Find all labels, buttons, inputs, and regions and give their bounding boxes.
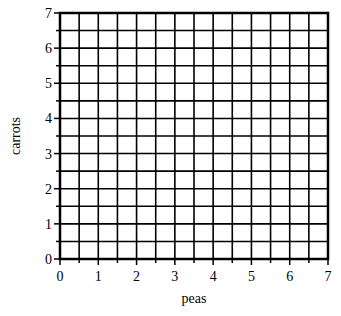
y-tick-label: 5 bbox=[45, 76, 52, 91]
x-tick-label: 6 bbox=[286, 269, 293, 284]
x-tick-label: 0 bbox=[57, 269, 64, 284]
x-tick-label: 4 bbox=[210, 269, 217, 284]
y-tick-label: 0 bbox=[45, 252, 52, 267]
y-axis-ticks: 01234567 bbox=[45, 6, 60, 267]
x-axis-ticks: 01234567 bbox=[57, 259, 332, 284]
y-tick-label: 4 bbox=[45, 111, 52, 126]
y-tick-label: 3 bbox=[45, 147, 52, 162]
x-tick-label: 2 bbox=[133, 269, 140, 284]
x-tick-label: 7 bbox=[325, 269, 332, 284]
x-tick-label: 5 bbox=[248, 269, 255, 284]
y-tick-label: 2 bbox=[45, 182, 52, 197]
x-tick-label: 1 bbox=[95, 269, 102, 284]
x-axis-label: peas bbox=[182, 291, 207, 306]
y-axis-label: carrots bbox=[8, 117, 23, 155]
chart: 01234567 01234567 peas carrots bbox=[0, 0, 341, 316]
grid-lines bbox=[60, 13, 328, 259]
y-tick-label: 7 bbox=[45, 6, 52, 21]
y-tick-label: 6 bbox=[45, 41, 52, 56]
y-tick-label: 1 bbox=[45, 217, 52, 232]
x-tick-label: 3 bbox=[171, 269, 178, 284]
